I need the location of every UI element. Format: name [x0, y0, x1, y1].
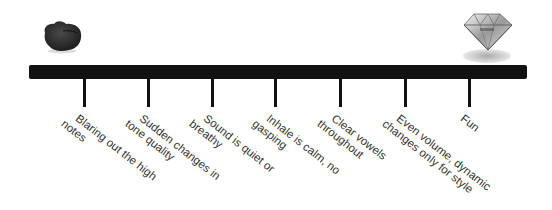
- scale-tick: [211, 79, 214, 107]
- scale-tick: [147, 79, 150, 107]
- diamond-icon: [450, 6, 522, 64]
- rock-icon: [41, 19, 83, 54]
- scale-tick: [274, 79, 277, 107]
- tick-label-line: Fun: [458, 112, 482, 134]
- scale-tick: [468, 79, 471, 107]
- scale-bar: [29, 65, 527, 79]
- scale-tick: [339, 79, 342, 107]
- tick-label: Fun: [458, 112, 482, 134]
- scale-tick: [83, 79, 86, 107]
- scale-tick: [404, 79, 407, 107]
